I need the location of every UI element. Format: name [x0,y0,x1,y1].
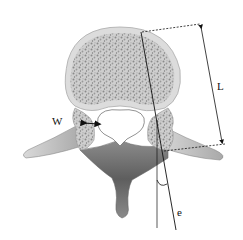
length-label: L [217,81,224,92]
vertebral-foramen [98,110,145,146]
angle-arc [157,180,167,185]
width-label: W [52,116,62,127]
spinous-process [80,140,168,218]
vertebra-diagram: W L e [0,0,243,240]
angle-label: e [177,207,182,218]
upper-dashed-line [142,24,200,32]
vertebral-body [65,27,180,111]
left-transverse-process [23,125,82,158]
